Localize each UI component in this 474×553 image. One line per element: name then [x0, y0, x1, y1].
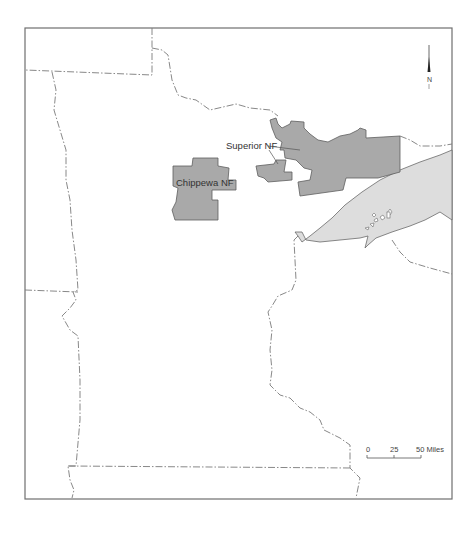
scale-bar: 0 25 50 Miles	[366, 445, 444, 458]
north-label: N	[427, 76, 432, 83]
state-boundary	[25, 28, 152, 75]
scale-tick-25: 25	[390, 445, 398, 454]
chippewa-national-forest	[172, 158, 236, 220]
north-arrow-icon	[428, 57, 431, 72]
map-frame	[25, 28, 452, 499]
chippewa-nf-label: Chippewa NF	[176, 177, 234, 188]
scale-tick-50: 50 Miles	[416, 445, 444, 454]
north-arrow: N	[427, 45, 432, 89]
map-canvas: Superior NF Chippewa NF N 0 25 50 Miles	[0, 0, 474, 553]
scale-tick-0: 0	[366, 445, 370, 454]
superior-nf-label: Superior NF	[226, 140, 277, 151]
